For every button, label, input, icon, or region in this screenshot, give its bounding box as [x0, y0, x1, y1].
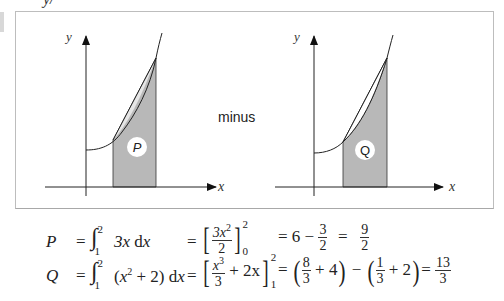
eq-p-lhs: P	[46, 232, 56, 251]
left-graph: P y x	[45, 29, 225, 196]
region-p-shading	[113, 58, 156, 187]
eq-q-step: = (83 + 4) − (13 + 2)= 133	[278, 256, 451, 286]
right-graph: Q y x	[275, 29, 456, 196]
eq-p-equals-1: =	[76, 232, 86, 252]
eq-q-integrand: (x2 + 2) dx	[114, 266, 185, 287]
eq-q-lhs: Q	[46, 266, 58, 285]
eq-q-integral: ∫21	[91, 256, 108, 285]
equation-q: Q	[46, 266, 58, 286]
minus-label: minus	[218, 109, 255, 125]
eq-q-equals-1: =	[76, 266, 86, 286]
eq-p-equals-2: =	[187, 232, 197, 252]
y-axis-label-left: y	[64, 29, 72, 44]
y-axis-label-right: y	[292, 29, 300, 44]
eq-q-equals-2: =	[187, 266, 197, 286]
x-axis-label-left: x	[217, 179, 225, 194]
x-axis-label-right: x	[448, 179, 456, 194]
eq-p-integral: ∫21	[91, 222, 108, 251]
equation-p: P	[46, 232, 56, 252]
upper-limit: 2	[98, 223, 104, 235]
region-p-label: P	[133, 140, 142, 155]
eq-p-step: = 6 − 32	[278, 223, 327, 253]
eq-p-antiderivative: [3x22]20	[201, 223, 253, 256]
eq-p-result: = 92	[338, 223, 369, 253]
region-q-label: Q	[360, 143, 370, 158]
eq-q-antiderivative: [x33 + 2x]21	[201, 256, 281, 289]
eq-p-integrand: 3x dx	[114, 232, 150, 252]
